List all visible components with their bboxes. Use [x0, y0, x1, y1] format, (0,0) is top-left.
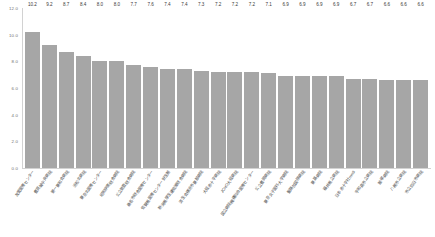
bar[interactable] [227, 72, 242, 168]
bar[interactable] [143, 67, 158, 168]
bar-value-label: 8.0 [114, 2, 120, 7]
bar-value-label: 7.7 [131, 2, 137, 7]
bar-slot: 6.6 [379, 8, 394, 168]
bar[interactable] [59, 52, 74, 168]
bar[interactable] [42, 45, 57, 168]
plot-area: 0.02.04.06.08.010.012.0 10.29.28.78.48.0… [22, 8, 431, 168]
bar-value-label: 6.6 [417, 2, 423, 7]
bar[interactable] [126, 65, 141, 168]
bar[interactable] [160, 69, 175, 168]
bar[interactable] [177, 69, 192, 168]
x-axis-label-slot: 公立豊岡病院 [261, 169, 276, 237]
bar-value-label: 8.7 [63, 2, 69, 7]
bar[interactable] [346, 79, 361, 168]
bar-value-label: 6.9 [316, 2, 322, 7]
bar-value-label: 6.9 [333, 2, 339, 7]
bar[interactable] [211, 72, 226, 168]
x-axis-label-slot: 豊見城中央病院 [42, 169, 57, 237]
x-axis-label-slot: 新潟県厚生連佐渡総合病院 [177, 169, 192, 237]
bar-value-label: 6.6 [401, 2, 407, 7]
x-axis-label-slot: 宇和島市立病院 [362, 169, 377, 237]
y-axis-tick-label: 10.0 [9, 32, 18, 37]
x-axis-label-slot: 福井県立病院 [329, 169, 344, 237]
bar-slot: 7.1 [261, 8, 276, 168]
x-axis-label-slot: 大阪赤十字病院 [211, 169, 226, 237]
bar[interactable] [278, 76, 293, 168]
bar-slot: 7.2 [227, 8, 242, 168]
bar-slot: 6.9 [278, 8, 293, 168]
bar-value-label: 9.2 [46, 2, 52, 7]
bar-slot: 8.4 [76, 8, 91, 168]
bar-slot: 6.9 [329, 8, 344, 168]
x-axis-label-slot: 国立病院機構仙台医療センター [244, 169, 259, 237]
bar-value-label: 8.0 [97, 2, 103, 7]
bar-chart: 0.02.04.06.08.010.012.0 10.29.28.78.48.0… [0, 0, 435, 237]
x-axis-label-slot: 八尾市立病院 [396, 169, 411, 237]
x-axis-label-slot: 第一東和会病院 [59, 169, 74, 237]
bar-value-label: 7.2 [232, 2, 238, 7]
bar-value-label: 7.2 [249, 2, 255, 7]
bar-value-label: 6.7 [350, 2, 356, 7]
bar-value-label: 6.9 [299, 2, 305, 7]
y-axis-tick-label: 8.0 [12, 59, 18, 64]
x-axis-label-slot: 市立四日市病院 [413, 169, 428, 237]
bar-slot: 6.7 [362, 8, 377, 168]
y-axis-tick-label: 6.0 [12, 86, 18, 91]
bar-slot: 8.0 [92, 8, 107, 168]
bar[interactable] [413, 80, 428, 168]
x-axis-label-slot: 東京女子医科大学病院 [278, 169, 293, 237]
bar[interactable] [362, 79, 377, 168]
bar[interactable] [329, 76, 344, 168]
x-axis-labels: 友愛医療センター豊見城中央病院第一東和会病院浜松北病院東京北医療センター昭和伊南… [22, 169, 431, 237]
bar-slot: 6.7 [346, 8, 361, 168]
bar[interactable] [295, 76, 310, 168]
bar-slot: 8.7 [59, 8, 74, 168]
bar-slot: 7.6 [143, 8, 158, 168]
bar-value-label: 6.7 [367, 2, 373, 7]
x-axis-label-slot: 浜松北病院 [76, 169, 91, 237]
bar-value-label: 7.4 [181, 2, 187, 7]
bar-slot: 6.6 [396, 8, 411, 168]
bar[interactable] [261, 73, 276, 168]
x-axis-label-slot: 昭和伊南総合病院 [109, 169, 124, 237]
bar-slot: 8.0 [109, 8, 124, 168]
bar-slot: 7.2 [244, 8, 259, 168]
y-axis-tick-label: 4.0 [12, 112, 18, 117]
bar-slot: 6.9 [295, 8, 310, 168]
bar[interactable] [379, 80, 394, 168]
x-axis-label-slot: 聖路加国際病院 [295, 169, 310, 237]
bar-value-label: 7.2 [215, 2, 221, 7]
bar[interactable] [76, 56, 91, 168]
bar[interactable] [244, 72, 259, 168]
bar-slot: 7.4 [160, 8, 175, 168]
bar-slot: 7.3 [194, 8, 209, 168]
bar-value-label: 10.2 [28, 2, 37, 7]
y-axis-tick-label: 2.0 [12, 139, 18, 144]
bar-slot: 7.7 [126, 8, 141, 168]
bar-value-label: 6.6 [384, 2, 390, 7]
bar[interactable] [312, 76, 327, 168]
bar[interactable] [109, 61, 124, 168]
x-axis-category-label: 友愛医療センター [15, 170, 36, 198]
bar[interactable] [396, 80, 411, 168]
bar[interactable] [92, 61, 107, 168]
x-axis-label-slot: 済生会横浜市東部病院 [194, 169, 209, 237]
x-axis-category-label: 東葛病院 [310, 170, 322, 185]
bar-slot: 6.9 [312, 8, 327, 168]
bar-slot: 9.2 [42, 8, 57, 168]
x-axis-label-slot: 飯塚病院 [379, 169, 394, 237]
bar-value-label: 7.6 [147, 2, 153, 7]
x-axis-category-label: 浜松北病院 [72, 170, 87, 188]
x-axis-label-slot: 東京北医療センター [92, 169, 107, 237]
x-axis-label-slot: 友愛医療センター [25, 169, 40, 237]
y-axis-tick-label: 12.0 [9, 6, 18, 11]
bar[interactable] [194, 71, 209, 168]
bar-value-label: 6.9 [282, 2, 288, 7]
bar[interactable] [25, 32, 40, 168]
bar-value-label: 7.4 [164, 2, 170, 7]
bar-series: 10.29.28.78.48.08.07.77.67.47.47.37.27.2… [22, 8, 431, 168]
y-axis-tick-label: 0.0 [12, 166, 18, 171]
bar-slot: 7.2 [211, 8, 226, 168]
x-axis-category-label: 飯塚病院 [378, 170, 390, 185]
bar-value-label: 7.1 [266, 2, 272, 7]
